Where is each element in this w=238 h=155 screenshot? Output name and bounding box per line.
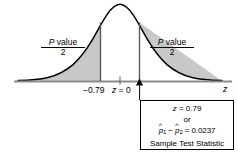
p-hat-one-symbol: ^p (159, 125, 163, 136)
axis-tick-zero-rest: = 0 (116, 85, 130, 95)
pvalue-label-left: P value 2 (41, 38, 85, 57)
hat-accent-two-icon: ^ (175, 120, 178, 131)
callout-minus-operator: − (166, 126, 175, 135)
pvalue-right-value-word: value (163, 37, 186, 47)
p-hat-two-symbol: ^p (175, 125, 179, 136)
pvalue-left-denominator: 2 (41, 48, 85, 57)
hat-accent-one-icon: ^ (159, 120, 162, 131)
pvalue-left-value-word: value (54, 37, 77, 47)
callout-z-value: z = 0.79 (141, 103, 233, 114)
callout-equals-value: = 0.0237 (183, 126, 216, 135)
axis-tick-label-zero: z = 0 (112, 86, 131, 95)
axis-label-z: z (223, 85, 227, 94)
callout-caption: Sample Test Statistic (141, 138, 233, 149)
callout-z-rest: = 0.79 (177, 104, 202, 113)
statistics-figure: P value 2 P value 2 −0.79 z = 0 z z = 0.… (0, 0, 238, 155)
pvalue-label-right: P value 2 (150, 38, 194, 57)
callout-proportion-difference: ^p1 − ^p2 = 0.0237 (141, 125, 233, 138)
callout-or-text: or (141, 114, 233, 125)
axis-tick-label-negative: −0.79 (83, 86, 105, 95)
pvalue-right-denominator: 2 (150, 48, 194, 57)
sample-test-statistic-callout: z = 0.79 or ^p1 − ^p2 = 0.0237 Sample Te… (140, 100, 234, 150)
